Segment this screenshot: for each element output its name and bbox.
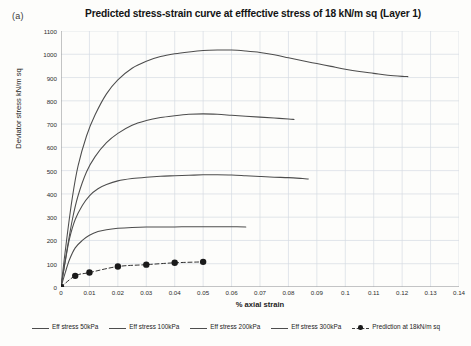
y-axis-title: Deviator stress kN/m sq (14, 39, 23, 179)
x-tick-label: 0.08 (282, 289, 294, 296)
gridlines (61, 31, 459, 287)
x-axis-title: % axial strain (61, 300, 459, 309)
legend-item-2[interactable]: Eff stress 100kPa (109, 324, 179, 331)
legend-item-1[interactable]: Eff stress 50kPa (32, 324, 98, 331)
legend-label: Prediction at 18kN/m sq (372, 324, 440, 330)
y-tick-label: 400 (47, 190, 57, 197)
y-axis-tick-labels: 010020030040050060070080090010001100 (26, 31, 57, 287)
series-line (61, 50, 408, 287)
legend-line-icon (271, 324, 288, 331)
x-tick-label: 0 (59, 289, 62, 296)
legend-item-3[interactable]: Eff stress 200kPa (190, 324, 260, 331)
legend-label: Eff stress 300kPa (291, 324, 341, 330)
x-tick-label: 0.03 (140, 289, 152, 296)
y-tick-label: 600 (47, 144, 57, 151)
y-tick-label: 800 (47, 97, 57, 104)
series-4 (61, 50, 408, 287)
x-tick-label: 0.05 (197, 289, 209, 296)
data-point-marker (143, 261, 149, 267)
panel-label: (a) (12, 11, 24, 21)
series-line (61, 262, 203, 287)
y-tick-label: 1100 (44, 28, 57, 35)
plot-svg (61, 31, 459, 287)
legend-item-4[interactable]: Eff stress 300kPa (271, 324, 341, 331)
chart-figure: (a) Predicted stress-strain curve at eff… (0, 0, 471, 346)
data-point-marker (86, 269, 92, 275)
x-tick-label: 0.12 (396, 289, 408, 296)
legend-line-icon (32, 324, 49, 331)
series-line (61, 114, 294, 287)
y-tick-label: 1000 (43, 51, 57, 58)
series-3 (61, 114, 294, 287)
legend-line-icon (109, 324, 126, 331)
y-tick-label: 700 (47, 121, 57, 128)
y-tick-label: 200 (47, 237, 57, 244)
series-1 (61, 227, 246, 287)
x-tick-label: 0.13 (425, 289, 437, 296)
legend-item-5[interactable]: Prediction at 18kN/m sq (352, 324, 440, 331)
series-line (61, 227, 246, 287)
x-tick-label: 0.09 (311, 289, 323, 296)
series-5 (61, 259, 206, 287)
x-tick-label: 0.06 (226, 289, 238, 296)
x-tick-label: 0.11 (368, 289, 380, 296)
y-tick-label: 900 (47, 74, 57, 81)
y-tick-label: 300 (47, 214, 57, 221)
plot-area (61, 31, 459, 287)
x-tick-label: 0.07 (254, 289, 266, 296)
x-tick-label: 0.01 (83, 289, 95, 296)
legend-marker-icon (352, 324, 369, 331)
y-tick-label: 0 (54, 284, 57, 291)
data-point-marker (72, 273, 78, 279)
y-tick-label: 100 (47, 260, 57, 267)
legend-line-icon (190, 324, 207, 331)
y-tick-label: 500 (47, 167, 57, 174)
legend-label: Eff stress 50kPa (52, 324, 98, 330)
series-layer (61, 50, 408, 287)
chart-legend: Eff stress 50kPaEff stress 100kPaEff str… (30, 324, 442, 331)
x-tick-label: 0.04 (169, 289, 181, 296)
x-tick-label: 0.1 (341, 289, 350, 296)
x-tick-label: 0.02 (112, 289, 124, 296)
data-point-marker (200, 259, 206, 265)
legend-label: Eff stress 200kPa (210, 324, 260, 330)
data-point-marker (172, 260, 178, 266)
x-tick-label: 0.14 (453, 289, 465, 296)
legend-label: Eff stress 100kPa (129, 324, 179, 330)
chart-title: Predicted stress-strain curve at efffect… (58, 8, 448, 19)
data-point-marker (115, 263, 121, 269)
